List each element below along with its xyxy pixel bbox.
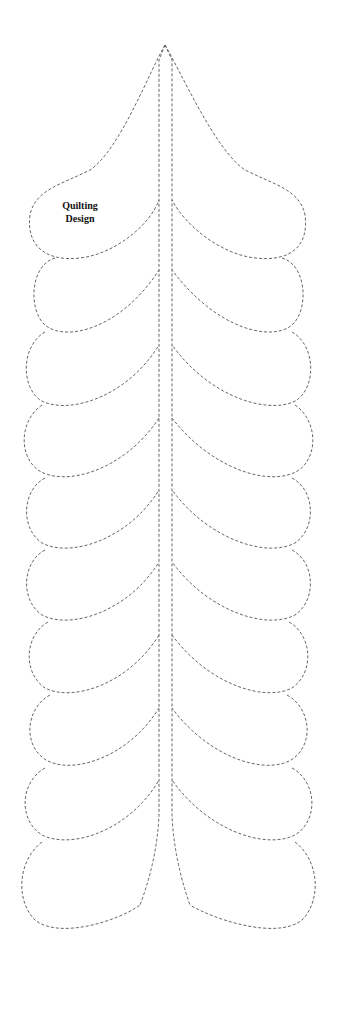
top-plume	[29, 45, 305, 259]
quilting-pattern-canvas: Quilting Design	[0, 0, 337, 1022]
central-spine	[140, 45, 190, 905]
right-lobes	[172, 258, 315, 928]
feather-pattern-drawing	[0, 0, 337, 1022]
design-title-line1: Quilting	[30, 199, 130, 212]
left-lobes	[22, 258, 159, 928]
design-title-line2: Design	[30, 212, 130, 225]
design-title: Quilting Design	[30, 199, 130, 225]
